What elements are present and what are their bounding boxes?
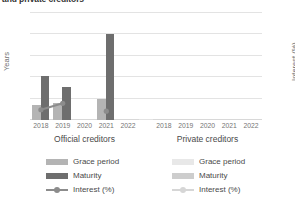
group-label-private-creditors: Private creditors (153, 134, 262, 146)
x-tick: 2020 (74, 122, 96, 129)
chart-title: and private creditors (2, 0, 232, 4)
x-tick: 2018 (153, 122, 175, 129)
legend-line-marker-icon (46, 186, 68, 194)
legend-label: Interest (%) (73, 185, 114, 195)
legend-swatch-icon (46, 173, 68, 179)
interest-line-official (30, 12, 139, 120)
legend-private-creditors: Grace period Maturity Interest (%) (172, 155, 292, 197)
group-label-official-creditors: Official creditors (30, 134, 139, 146)
x-tick: 2021 (218, 122, 240, 129)
legend-swatch-icon (46, 159, 68, 165)
x-tick: 2019 (175, 122, 197, 129)
legend-item-maturity[interactable]: Maturity (46, 169, 166, 183)
panel-private-creditors (153, 12, 262, 120)
x-tick: 2022 (117, 122, 139, 129)
interest-line-private (153, 12, 262, 120)
x-tick: 2022 (240, 122, 262, 129)
x-tick: 2020 (197, 122, 219, 129)
x-tick: 2019 (52, 122, 74, 129)
legend-label: Grace period (73, 157, 119, 167)
legend-item-maturity[interactable]: Maturity (172, 169, 292, 183)
x-tick: 2018 (30, 122, 52, 129)
legend-line-marker-icon (172, 186, 194, 194)
plot-area: 50 40 30 20 10 0 15 12 9 6 3 0 (30, 12, 262, 120)
legend-item-grace-period[interactable]: Grace period (46, 155, 166, 169)
legend-official-creditors: Grace period Maturity Interest (%) (46, 155, 166, 197)
y-axis-left-label: Years (2, 39, 11, 85)
chart-figure: and private creditors Years Interest (%)… (0, 0, 295, 205)
legend-label: Grace period (199, 157, 245, 167)
legend-item-interest[interactable]: Interest (%) (172, 183, 292, 197)
legend-label: Interest (%) (199, 185, 240, 195)
y-axis-right-label: Interest (%) (290, 27, 296, 97)
panel-official-creditors (30, 12, 139, 120)
legend-item-interest[interactable]: Interest (%) (46, 183, 166, 197)
legend-swatch-icon (172, 159, 194, 165)
x-axis-private: 2018 2019 2020 2021 2022 (153, 122, 262, 132)
x-tick: 2021 (95, 122, 117, 129)
legend-item-grace-period[interactable]: Grace period (172, 155, 292, 169)
legend-label: Maturity (199, 171, 227, 181)
legend-swatch-icon (172, 173, 194, 179)
x-axis-official: 2018 2019 2020 2021 2022 (30, 122, 139, 132)
legend-label: Maturity (73, 171, 101, 181)
